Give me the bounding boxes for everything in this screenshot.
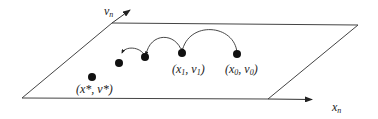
arc-p2-to-p3: [122, 48, 145, 56]
point-iterate-3: [115, 59, 123, 67]
phase-plane-diagram: vn xn (x1, v1) (x0, v0) (x*, v*): [0, 0, 378, 119]
x-axis-arrow: [268, 99, 312, 100]
label-x1-v1: (x1, v1): [172, 62, 205, 77]
arc-x1-to-p2: [146, 37, 182, 55]
label-x0-v0: (x0, v0): [225, 62, 258, 77]
plane-parallelogram: [22, 23, 358, 99]
point-iterate-2: [141, 53, 149, 61]
label-x-star: (x*, v*): [76, 82, 113, 96]
point-x-star: [88, 73, 96, 81]
arc-x0-to-x1: [182, 30, 237, 53]
v-axis-arrow: [112, 10, 130, 23]
x-axis-label: xn: [331, 100, 341, 115]
point-x0-v0: [233, 50, 241, 58]
point-x1-v1: [178, 49, 186, 57]
v-axis-label: vn: [104, 4, 113, 19]
